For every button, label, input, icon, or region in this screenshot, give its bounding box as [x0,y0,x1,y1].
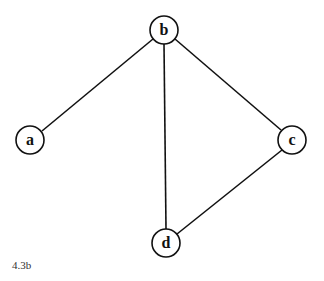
node-b: b [150,16,178,44]
edge-b-a [42,39,153,131]
node-label-d: d [162,234,171,251]
graph-diagram: a b c d [0,0,324,281]
node-a: a [16,126,44,154]
node-d: d [152,229,180,257]
edge-b-c [175,39,281,130]
edge-b-d [164,44,166,229]
node-label-a: a [26,131,34,148]
edges [42,39,282,234]
node-label-c: c [288,131,295,148]
edge-c-d [177,150,282,234]
figure-caption: 4.3b [12,259,31,271]
node-label-b: b [160,21,169,38]
node-c: c [278,126,306,154]
